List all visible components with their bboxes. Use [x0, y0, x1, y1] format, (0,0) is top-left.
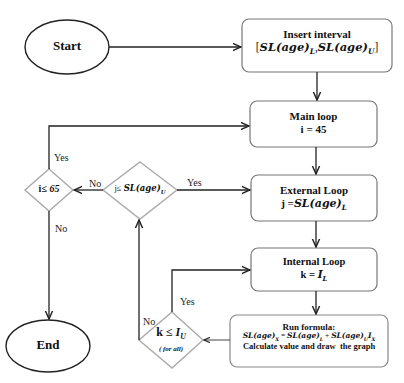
- label-j-no: No: [89, 178, 101, 189]
- range-lower-expr: SL(age): [260, 40, 310, 54]
- cond-i-op: ≤: [41, 183, 47, 194]
- cond-k-expr: k ≤ IU: [139, 326, 203, 342]
- formula-plus: +: [323, 331, 331, 340]
- formula-term2: SL(age): [331, 331, 364, 340]
- cond-k-sub: U: [180, 332, 186, 341]
- cond-i-node: i≤ 65: [25, 183, 73, 195]
- end-label: End: [36, 337, 59, 352]
- external-init-prefix: j =: [281, 197, 294, 209]
- external-loop-init: j =SL(age)L: [251, 197, 377, 212]
- run-formula-node: Run formula: SL(age)X = SL(age)L + SL(ag…: [230, 322, 388, 352]
- cond-k-var: k: [156, 325, 163, 339]
- insert-interval-node: Insert interval [SL(age)L,SL(age)U]: [242, 28, 392, 57]
- internal-init-sub: L: [323, 275, 328, 283]
- label-j-yes: Yes: [187, 177, 202, 188]
- external-loop-node: External Loop j =SL(age)L: [251, 184, 377, 212]
- label-k-no: No: [143, 316, 155, 327]
- cond-j-sub: U: [161, 189, 166, 195]
- label-i-yes: Yes: [54, 152, 69, 163]
- internal-loop-title: Internal Loop: [251, 256, 377, 268]
- external-init-sub: L: [342, 203, 347, 212]
- start-node: Start: [25, 39, 109, 54]
- formula-term1: SL(age): [287, 331, 320, 340]
- range-upper-expr: SL(age): [318, 40, 368, 54]
- internal-loop-init: k = IL: [251, 268, 377, 284]
- start-label: Start: [53, 38, 81, 53]
- cond-j-node: j≤ SL(age)U: [103, 184, 177, 195]
- cond-j-op: ≤: [117, 183, 122, 193]
- cond-j-expr: SL(age): [124, 183, 161, 193]
- external-init-expr: SL(age): [294, 197, 342, 210]
- internal-loop-node: Internal Loop k = IL: [251, 256, 377, 284]
- cond-k-note: ( for all): [139, 345, 203, 353]
- cond-i-value: 65: [49, 183, 59, 194]
- label-i-no: No: [55, 223, 67, 234]
- flowchart: Start End Insert interval [SL(age)L,SL(a…: [0, 0, 404, 383]
- label-k-yes: Yes: [180, 296, 195, 307]
- internal-init-prefix: k =: [301, 269, 318, 280]
- bracket-close: ]: [374, 41, 378, 53]
- main-loop-title: Main loop: [250, 110, 377, 123]
- cond-k-node: k ≤ IU ( for all): [139, 326, 203, 353]
- formula-lhs: SL(age): [243, 331, 276, 340]
- formula-eq: =: [279, 331, 287, 340]
- external-loop-title: External Loop: [251, 184, 377, 197]
- insert-interval-range: [SL(age)L,SL(age)U]: [242, 41, 392, 57]
- run-formula-description: Calculate value and draw the graph: [230, 342, 388, 352]
- main-loop-init: i = 45: [250, 123, 377, 136]
- edge-condi-yes: [49, 126, 249, 169]
- end-node: End: [6, 338, 90, 353]
- main-loop-node: Main loop i = 45: [250, 110, 377, 135]
- cond-k-op: ≤: [166, 325, 173, 339]
